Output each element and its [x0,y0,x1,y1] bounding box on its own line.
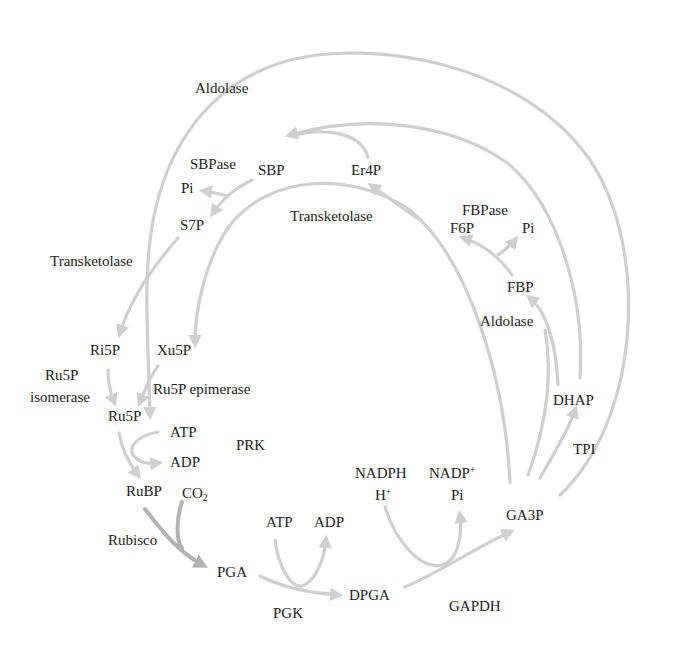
metabolite-pi-gapdh: Pi [451,487,464,504]
enzyme-prk: PRK [236,437,265,454]
metabolite-atp-prk: ATP [170,424,197,441]
arrow-ru5p-to-rubp [119,433,138,475]
metabolite-pga: PGA [217,564,247,581]
metabolite-nadph: NADPH [355,465,407,482]
metabolite-f6p: F6P [450,220,474,237]
metabolite-ru5p: Ru5P [108,408,141,425]
co2-base: CO [182,485,203,501]
metabolite-ri5p: Ri5P [90,342,120,359]
metabolite-rubp: RuBP [126,483,162,500]
enzyme-transketolase-left: Transketolase [50,253,133,270]
arrow-ga3p-to-dhap [540,410,575,478]
metabolite-co2: CO2 [182,485,208,502]
metabolite-s7p: S7P [180,217,204,234]
metabolite-nadp-plus: NADP+ [429,465,475,482]
arrow-sbpase-pi [204,191,228,196]
enzyme-aldolase-right: Aldolase [480,313,533,330]
arrow-dhap-to-fbp [530,298,558,385]
h-superscript: + [386,486,392,497]
nadp-superscript: + [470,464,476,475]
enzyme-ru5p-epimerase: Ru5P epimerase [153,381,250,398]
arrow-ga3p-to-fbp [528,330,548,475]
arrow-co2-into-rubisco [178,502,183,548]
metabolite-adp-pgk: ADP [314,514,344,531]
arrow-prk-atp-to-adp [132,432,158,463]
enzyme-rubisco: Rubisco [108,532,157,549]
arrow-ri5p-to-ru5p [108,370,114,402]
metabolite-dhap: DHAP [553,392,594,409]
nadp-base: NADP [429,465,470,481]
metabolite-pi-fbpase: Pi [522,220,535,237]
arrow-fbp-to-f6p [464,238,512,275]
calvin-cycle-diagram: Aldolase SBPase Transketolase FBPase Tra… [0,0,673,653]
metabolite-h-plus: H+ [375,487,391,504]
metabolite-er4p: Er4P [351,162,381,179]
arrow-fbpase-pi [498,240,515,255]
enzyme-ru5p-isomerase-line1: Ru5P [45,367,78,384]
enzyme-sbpase: SBPase [190,156,236,173]
metabolite-adp-prk: ADP [170,454,200,471]
metabolite-pi-sbpase: Pi [181,180,194,197]
arrow-er4p-to-sbp [292,132,368,157]
enzyme-gapdh: GAPDH [449,598,501,615]
metabolite-fbp: FBP [507,279,534,296]
arrow-outer-ga3p-to-xu5p [147,53,629,495]
enzyme-tpi: TPI [573,441,596,458]
arrow-pgk-atp-to-adp [275,540,326,586]
enzyme-fbpase: FBPase [462,202,508,219]
enzyme-transketolase-mid: Transketolase [290,208,373,225]
arrow-gapdh-nadph-to-nadp [385,507,461,566]
enzyme-aldolase-top: Aldolase [195,80,248,97]
enzyme-ru5p-isomerase-line2: isomerase [30,389,90,406]
metabolite-sbp: SBP [258,162,285,179]
enzyme-pgk: PGK [273,605,303,622]
pathway-arrows [0,0,673,653]
metabolite-xu5p: Xu5P [157,342,191,359]
co2-subscript: 2 [203,492,208,503]
metabolite-dpga: DPGA [349,587,390,604]
metabolite-ga3p: GA3P [506,507,544,524]
metabolite-atp-pgk: ATP [266,514,293,531]
arrow-f6p-to-er4p [372,186,420,220]
arrow-dhap-to-sbp [290,124,581,378]
h-base: H [375,487,386,503]
